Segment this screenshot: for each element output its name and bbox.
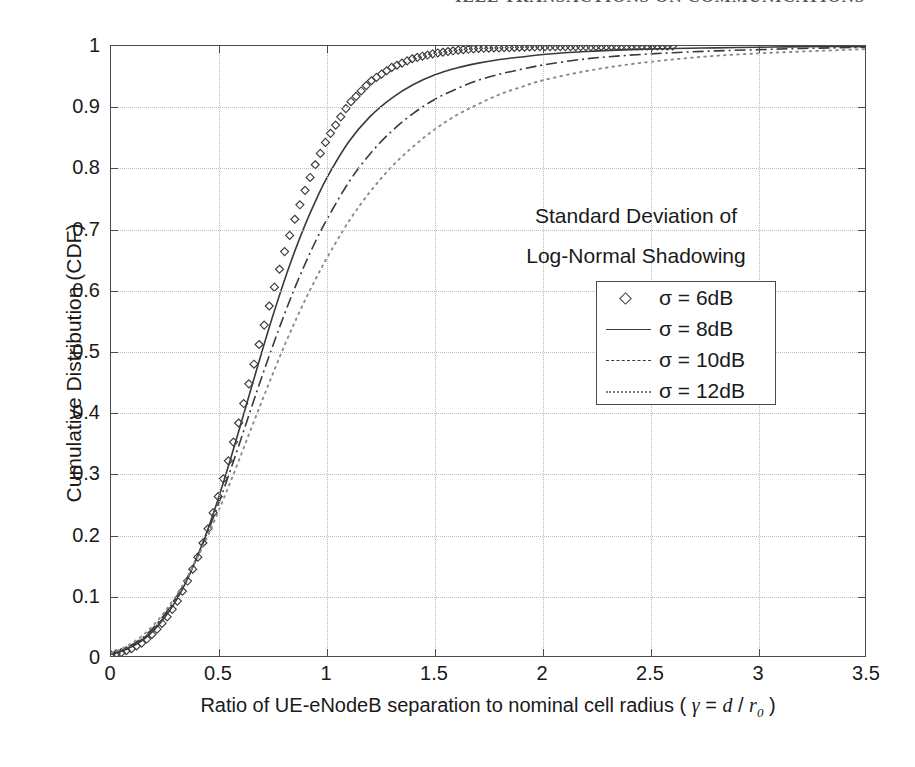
line-sample-icon xyxy=(606,360,651,361)
data-marker-diamond xyxy=(327,129,335,137)
y-axis-label: Cumulative Distribution (CDF) xyxy=(62,57,86,669)
data-marker-diamond xyxy=(296,201,304,209)
cdf-chart-figure: 00.511.522.533.5 00.10.20.30.40.50.60.70… xyxy=(0,0,915,767)
x-tick-label: 3 xyxy=(752,662,763,685)
x-tick-label: 2 xyxy=(536,662,547,685)
data-marker-diamond xyxy=(275,265,283,273)
x-tick-label: 3.5 xyxy=(852,662,880,685)
y-axis-tick-right xyxy=(858,474,865,475)
legend-item[interactable]: σ = 6dB xyxy=(597,282,775,313)
data-marker-diamond xyxy=(306,173,314,181)
data-marker-diamond xyxy=(311,161,319,169)
series-marker-group xyxy=(111,46,677,657)
data-marker-diamond xyxy=(270,283,278,291)
x-axis-label: Ratio of UE-eNodeB separation to nominal… xyxy=(110,694,866,721)
data-marker-diamond xyxy=(357,87,365,95)
data-marker-diamond xyxy=(316,149,324,157)
x-tick-label: 1.5 xyxy=(420,662,448,685)
x-axis-tick xyxy=(219,649,220,656)
y-tick-label: 0 xyxy=(89,646,100,669)
legend-sample-dotted-line xyxy=(597,375,659,406)
data-marker-diamond xyxy=(332,121,340,129)
legend-item-label: σ = 8dB xyxy=(659,317,733,341)
y-axis-tick-right xyxy=(858,536,865,537)
x-axis-label-gamma: γ xyxy=(692,694,700,716)
y-axis-tick xyxy=(111,291,118,292)
x-axis-label-r: r xyxy=(749,694,757,716)
y-axis-tick xyxy=(111,107,118,108)
y-tick-label: 1 xyxy=(89,34,100,57)
y-axis-tick-right xyxy=(858,413,865,414)
data-marker-diamond xyxy=(321,138,329,146)
x-tick-label: 0.5 xyxy=(204,662,232,685)
legend-item[interactable]: σ = 10dB xyxy=(597,344,775,375)
x-axis-tick-top xyxy=(327,46,328,53)
x-axis-tick xyxy=(651,649,652,656)
y-axis-tick xyxy=(111,352,118,353)
x-axis-label-prefix: Ratio of UE-eNodeB separation to nominal… xyxy=(200,694,691,716)
x-axis-label-suffix: ) xyxy=(763,694,775,716)
data-marker-diamond xyxy=(342,105,350,113)
legend-item[interactable]: σ = 12dB xyxy=(597,375,775,406)
legend-sample-solid-line xyxy=(597,313,659,344)
legend-item[interactable]: σ = 8dB xyxy=(597,313,775,344)
x-axis-label-slash: / xyxy=(732,694,749,716)
y-axis-tick xyxy=(111,230,118,231)
y-axis-tick xyxy=(111,536,118,537)
x-axis-tick xyxy=(543,649,544,656)
x-axis-tick-top xyxy=(435,46,436,53)
line-sample-icon xyxy=(606,329,651,330)
x-tick-label: 0 xyxy=(104,662,115,685)
x-axis-tick xyxy=(327,649,328,656)
data-marker-diamond xyxy=(286,231,294,239)
x-tick-label: 2.5 xyxy=(636,662,664,685)
y-axis-tick-right xyxy=(858,597,865,598)
data-marker-diamond xyxy=(291,215,299,223)
data-marker-diamond xyxy=(372,73,380,81)
y-axis-tick-right xyxy=(858,168,865,169)
data-marker-diamond xyxy=(260,321,268,329)
data-marker-diamond xyxy=(301,186,309,194)
x-axis-tick-top xyxy=(759,46,760,53)
legend-sample-dash-dot-line xyxy=(597,344,659,375)
data-marker-diamond xyxy=(347,98,355,106)
chart-legend: σ = 6dBσ = 8dBσ = 10dBσ = 12dB xyxy=(596,281,776,405)
legend-item-label: σ = 10dB xyxy=(659,348,745,372)
diamond-marker-icon xyxy=(619,292,632,305)
x-axis-tick-top xyxy=(651,46,652,53)
y-axis-tick xyxy=(111,597,118,598)
data-marker-diamond xyxy=(265,302,273,310)
data-marker-diamond xyxy=(383,67,391,75)
legend-item-label: σ = 12dB xyxy=(659,379,745,403)
y-axis-tick xyxy=(111,474,118,475)
x-axis-tick xyxy=(759,649,760,656)
data-marker-diamond xyxy=(352,92,360,100)
legend-sample-diamond-marker xyxy=(597,282,659,313)
y-axis-tick-right xyxy=(858,352,865,353)
x-tick-label: 1 xyxy=(320,662,331,685)
data-marker-diamond xyxy=(378,70,386,78)
data-marker-diamond xyxy=(337,113,345,121)
annotation-line-2: Log-Normal Shadowing xyxy=(476,236,796,276)
line-sample-icon xyxy=(606,391,651,393)
x-axis-tick-top xyxy=(543,46,544,53)
y-axis-tick xyxy=(111,413,118,414)
x-axis-tick-top xyxy=(219,46,220,53)
x-axis-tick xyxy=(435,649,436,656)
y-axis-tick xyxy=(111,168,118,169)
data-marker-diamond xyxy=(281,248,289,256)
annotation-line-1: Standard Deviation of xyxy=(476,196,796,236)
x-axis-label-equals: = xyxy=(700,694,723,716)
y-axis-tick-right xyxy=(858,107,865,108)
data-marker-diamond xyxy=(255,341,263,349)
legend-item-label: σ = 6dB xyxy=(659,286,733,310)
y-axis-tick-right xyxy=(858,291,865,292)
legend-annotation: Standard Deviation of Log-Normal Shadowi… xyxy=(476,196,796,276)
y-axis-tick-right xyxy=(858,230,865,231)
x-axis-label-d: d xyxy=(722,694,732,716)
